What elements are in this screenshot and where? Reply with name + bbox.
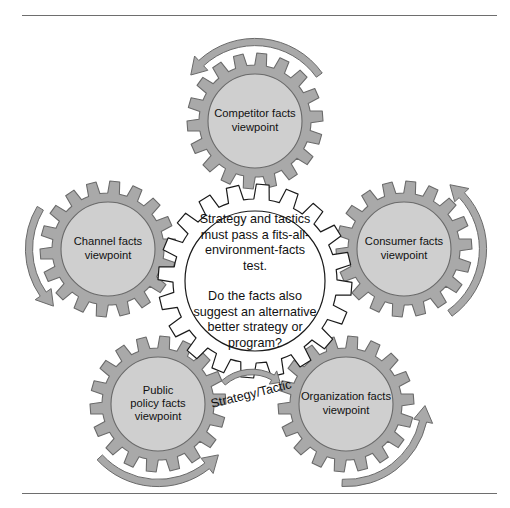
diagram-canvas: Strategy and tacticsmust pass a fits-all… [0,0,510,508]
center-text-line: program? [228,336,282,350]
gear-label-line: Competitor facts [214,107,296,119]
gear-label-line: viewpoint [232,121,280,133]
center-text-line: better strategy or [207,320,302,334]
center-text-line: environment-facts [205,243,305,257]
center-text-line: Strategy and tactics [200,212,311,226]
center-text-line: test. [243,259,267,273]
gear-diagram-figure: Strategy and tacticsmust pass a fits-all… [0,0,510,508]
center-text-line: must pass a fits-all- [201,228,309,242]
gear-label-line: viewpoint [135,410,183,422]
gear-label-line: Channel facts [74,235,143,247]
center-text-line: suggest an alternative [193,305,316,319]
gear-label-line: Consumer facts [365,235,444,247]
gear-label-line: Organization facts [301,390,392,402]
center-text-line: Do the facts also [208,289,302,303]
gear-label-line: Public [143,384,174,396]
gear-label-line: viewpoint [381,249,429,261]
gear-label-line: viewpoint [323,404,371,416]
gear-label-line: policy facts [130,397,186,409]
gear-label-line: viewpoint [85,249,133,261]
